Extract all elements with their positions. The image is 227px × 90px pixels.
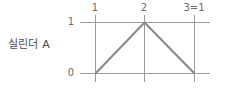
cylinder-timing-diagram: 실린더 A 1 0 1 2 3=1: [0, 0, 227, 90]
vertical-gridlines: [96, 15, 195, 82]
waveform-plot: [0, 0, 227, 90]
